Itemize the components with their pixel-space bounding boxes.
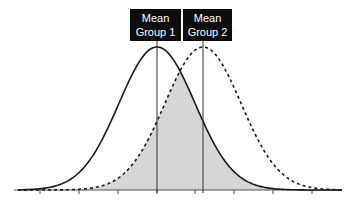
mean-group-1-label-line1: Mean — [130, 11, 181, 25]
mean-group-2-label: Mean Group 2 — [183, 9, 232, 41]
mean-group-1-label: Mean Group 1 — [130, 9, 181, 41]
x-axis-ticks — [40, 190, 312, 194]
mean-group-1-label-line2: Group 1 — [130, 25, 181, 39]
mean-group-2-label-line2: Group 2 — [183, 25, 232, 39]
mean-group-2-label-line1: Mean — [183, 11, 232, 25]
overlap-area — [18, 71, 342, 190]
